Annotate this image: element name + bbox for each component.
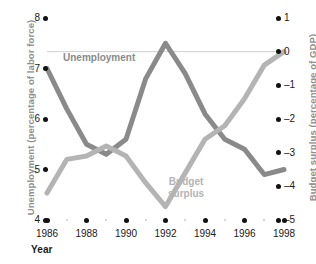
y-tick-right-label: –4	[284, 181, 304, 191]
series-line-budget-surplus	[47, 52, 284, 207]
x-axis-dot-marker	[124, 218, 129, 223]
y-tick-left-label: 4	[26, 215, 40, 225]
x-tick-label: 1990	[115, 228, 137, 239]
x-axis-dot-marker	[45, 218, 50, 223]
y-tick-left-label: 8	[26, 13, 40, 23]
y-tick-left-label: 6	[26, 114, 40, 124]
series-label-budget-surplus: Budget surplus	[168, 176, 204, 199]
x-tick-label: 1986	[36, 228, 58, 239]
axis-dot-marker	[276, 49, 281, 54]
x-tick-label: 1998	[273, 228, 295, 239]
x-axis-minor-dot	[145, 219, 147, 221]
axis-dot-marker	[276, 184, 281, 189]
y-tick-right-label: –5	[284, 215, 304, 225]
y-tick-right-label: 1	[284, 13, 304, 23]
y-tick-right-label: –3	[284, 148, 304, 158]
x-axis-dot-marker	[282, 218, 287, 223]
x-tick-label: 1992	[154, 228, 176, 239]
x-axis-minor-dot	[224, 219, 226, 221]
y-tick-left-label: 7	[26, 64, 40, 74]
axis-dot-marker	[276, 218, 281, 223]
axis-dot-marker	[43, 16, 48, 21]
x-axis-dot-marker	[163, 218, 168, 223]
x-axis-dot-marker	[203, 218, 208, 223]
series-label-unemployment: Unemployment	[63, 52, 135, 64]
plot-area	[0, 0, 316, 264]
axis-dot-marker	[43, 66, 48, 71]
x-tick-label: 1996	[233, 228, 255, 239]
y-tick-left-label: 5	[26, 165, 40, 175]
x-axis-minor-dot	[66, 219, 68, 221]
y-tick-right-label: 0	[284, 47, 304, 57]
axis-dot-marker	[276, 83, 281, 88]
axis-dot-marker	[276, 117, 281, 122]
y-tick-right-label: –1	[284, 80, 304, 90]
x-axis-dot-marker	[84, 218, 89, 223]
axis-dot-marker	[276, 16, 281, 21]
axis-dot-marker	[43, 167, 48, 172]
x-axis-dot-marker	[242, 218, 247, 223]
axis-dot-marker	[43, 117, 48, 122]
axis-dot-marker	[276, 150, 281, 155]
x-tick-label: 1994	[194, 228, 216, 239]
x-tick-label: 1988	[75, 228, 97, 239]
y-tick-right-label: –2	[284, 114, 304, 124]
chart-container: Unemployment (percentage of labor force)…	[0, 0, 316, 264]
